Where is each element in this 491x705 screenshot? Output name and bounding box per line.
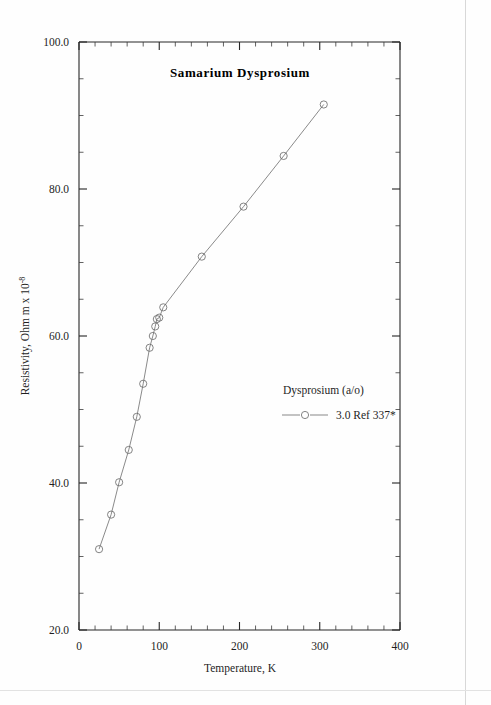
y-tick-label: 40.0 [49, 477, 69, 489]
axis-ticks [79, 42, 400, 630]
svg-text:Resistivity, Ohm m x 10-8: Resistivity, Ohm m x 10-8 [18, 277, 32, 396]
y-axis-title-exponent: -8 [18, 277, 27, 284]
data-line-3.0-ref-337* [99, 104, 324, 549]
legend-entry-label: 3.0 Ref 337* [336, 409, 396, 421]
y-axis-title-main: Resistivity, Ohm m x 10 [19, 283, 32, 395]
x-tick-label: 100 [151, 640, 169, 652]
legend-marker-circle-icon [301, 411, 308, 418]
plot-frame [79, 42, 400, 630]
x-tick-label: 400 [391, 640, 409, 652]
legend-header: Dysprosium (a/o) [283, 384, 364, 397]
data-series-dysprosium [95, 101, 327, 553]
y-tick-label: 60.0 [49, 330, 69, 342]
y-tick-label: 100.0 [43, 36, 69, 48]
x-tick-label: 200 [231, 640, 249, 652]
legend: Dysprosium (a/o) 3.0 Ref 337* [282, 384, 396, 421]
y-tick-label: 20.0 [49, 624, 69, 636]
chart-title: Samarium Dysprosium [170, 65, 310, 80]
axis-tick-labels: 010020030040020.040.060.080.0100.0 [43, 36, 409, 652]
x-axis-title: Temperature, K [204, 662, 277, 675]
x-tick-label: 0 [76, 640, 82, 652]
document-page: 010020030040020.040.060.080.0100.0 Samar… [0, 0, 491, 705]
x-tick-label: 300 [311, 640, 329, 652]
y-tick-label: 80.0 [49, 183, 69, 195]
y-axis-title: Resistivity, Ohm m x 10-8 [18, 277, 32, 396]
resistivity-vs-temperature-chart: 010020030040020.040.060.080.0100.0 Samar… [0, 0, 491, 705]
